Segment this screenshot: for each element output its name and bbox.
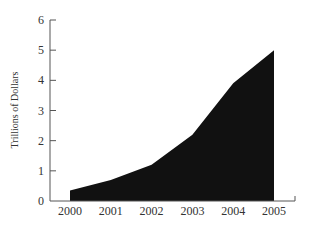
y-tick-label: 0 <box>38 194 44 208</box>
y-axis-ticks: 0123456 <box>38 13 56 208</box>
x-tick-label: 2004 <box>221 204 245 218</box>
y-axis-title: Trillions of Dollars <box>9 71 20 148</box>
y-tick-label: 1 <box>38 164 44 178</box>
y-tick-label: 4 <box>38 73 44 87</box>
y-tick-label: 6 <box>38 13 44 27</box>
x-tick-label: 2002 <box>140 204 164 218</box>
x-tick-label: 2003 <box>180 204 204 218</box>
x-axis-ticks: 200020012002200320042005 <box>58 204 286 218</box>
x-tick-label: 2001 <box>99 204 123 218</box>
y-tick-label: 2 <box>38 134 44 148</box>
y-tick-label: 5 <box>38 43 44 57</box>
y-tick-label: 3 <box>38 104 44 118</box>
x-tick-label: 2005 <box>262 204 286 218</box>
data-area <box>70 50 274 201</box>
area-chart: 0123456 200020012002200320042005 Trillio… <box>0 0 311 227</box>
x-tick-label: 2000 <box>58 204 82 218</box>
